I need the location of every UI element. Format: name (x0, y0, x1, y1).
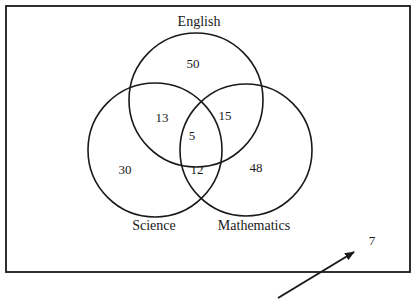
science-label: Science (132, 218, 176, 233)
english-label: English (178, 14, 221, 29)
all-three-count: 5 (189, 128, 196, 143)
english-science-count: 13 (156, 110, 169, 125)
venn-diagram: English Science Mathematics 50 13 15 5 3… (0, 0, 414, 302)
mathematics-circle (180, 84, 312, 216)
science-mathematics-count: 12 (191, 162, 204, 177)
english-mathematics-count: 15 (219, 108, 232, 123)
outside-count: 7 (369, 233, 376, 248)
science-circle (88, 83, 222, 217)
mathematics-label: Mathematics (218, 218, 290, 233)
science-only-count: 30 (119, 162, 132, 177)
mathematics-only-count: 48 (250, 160, 263, 175)
english-only-count: 50 (187, 56, 200, 71)
universal-set-box (6, 6, 410, 272)
english-circle (129, 33, 263, 167)
annotation-arrow (278, 252, 354, 298)
